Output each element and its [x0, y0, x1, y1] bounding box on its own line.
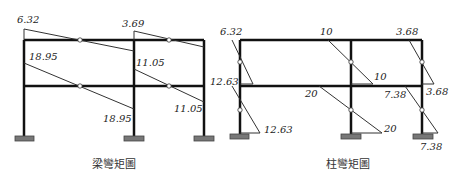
label: 20 — [304, 88, 318, 99]
label: 18.95 — [29, 51, 58, 62]
support-icons — [15, 136, 214, 141]
caption: 柱彎矩圖 — [326, 157, 370, 171]
label: 3.69 — [122, 18, 145, 29]
label: 18.95 — [103, 113, 132, 124]
caption: 梁彎矩圖 — [92, 157, 136, 171]
label: 11.05 — [174, 103, 203, 114]
label: 7.38 — [420, 141, 442, 152]
label: 6.32 — [17, 14, 39, 25]
frame-moment-diagrams: 6.32 3.69 18.95 11.05 18.95 11.05 梁彎矩圖 — [0, 0, 461, 180]
label: 6.32 — [220, 26, 242, 37]
label: 3.68 — [396, 26, 418, 37]
label: 10 — [320, 26, 333, 37]
column-moment-diagram: 6.32 10 3.68 12.63 10 7.38 3.68 20 12.63… — [210, 26, 448, 171]
label: 12.63 — [210, 76, 239, 87]
label: 7.38 — [384, 89, 406, 100]
label: 10 — [374, 71, 387, 82]
label: 3.68 — [426, 86, 448, 97]
beam-moment-diagram: 6.32 3.69 18.95 11.05 18.95 11.05 梁彎矩圖 — [15, 14, 214, 171]
support-icons — [230, 134, 433, 139]
label: 12.63 — [264, 124, 293, 135]
label: 11.05 — [136, 57, 165, 68]
label: 20 — [383, 123, 397, 134]
